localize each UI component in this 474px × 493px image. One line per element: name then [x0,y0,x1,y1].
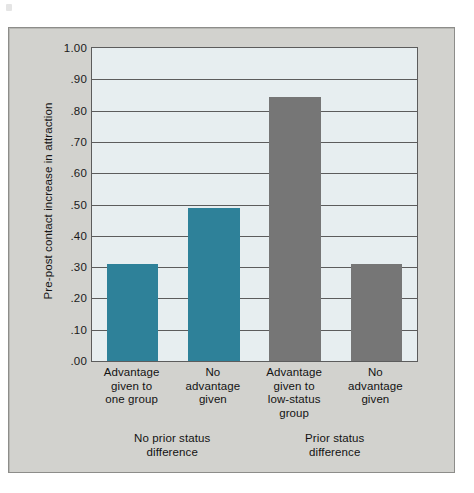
y-axis-tick-label: .80 [39,105,87,117]
gridline [92,205,417,206]
y-axis-tick-label: .50 [39,199,87,211]
y-axis-tick-label: .60 [39,167,87,179]
figure-panel: Pre-post contact increase in attraction … [8,27,455,473]
bar [351,264,403,361]
x-axis-tick-label: No advantage given [172,366,253,407]
bar [107,264,159,361]
y-axis-tick-label: .00 [39,355,87,367]
y-axis-tick-label: .70 [39,136,87,148]
scan-artifact [6,4,12,11]
y-axis-tick-labels: .00.10.20.30.40.50.60.70.80.901.00 [31,47,87,362]
group-label: Prior status difference [254,432,417,459]
y-axis-tick-label: .40 [39,230,87,242]
x-axis-tick-label: No advantage given [335,366,416,407]
gridline [92,173,417,174]
group-labels: No prior status differencePrior status d… [91,432,418,466]
y-axis-tick-label: .20 [39,292,87,304]
y-axis-tick-label: 1.00 [39,42,87,54]
group-label: No prior status difference [91,432,254,459]
bar [188,208,240,361]
gridline [92,79,417,80]
x-axis-tick-label: Advantage given to low-status group [254,366,335,420]
y-axis-tick-label: .90 [39,73,87,85]
bar [269,97,321,361]
x-axis-tick-labels: Advantage given to one groupNo advantage… [91,366,418,428]
gridline [92,236,417,237]
y-axis-tick-label: .30 [39,261,87,273]
gridline [92,111,417,112]
plot-area [91,47,418,362]
x-axis-tick-label: Advantage given to one group [91,366,172,407]
y-axis-tick-label: .10 [39,324,87,336]
gridline [92,142,417,143]
